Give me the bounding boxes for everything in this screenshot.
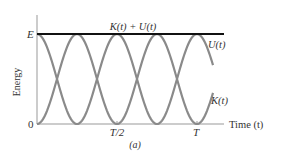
kinetic-energy-label: K(t): [210, 95, 228, 107]
half-period-label: T/2: [110, 126, 125, 138]
x-axis-label: Time (t): [229, 119, 264, 131]
e-tick-label: E: [26, 28, 34, 40]
zero-tick-label: 0: [28, 118, 34, 130]
panel-label: (a): [129, 139, 141, 151]
energy-vs-time-chart: E 0 Energy K(t) + U(t) U(t) K(t) T/2 T T…: [0, 0, 284, 152]
potential-energy-label: U(t): [208, 39, 226, 51]
period-label: T: [193, 126, 200, 138]
total-energy-label: K(t) + U(t): [109, 21, 157, 33]
y-axis-label: Energy: [11, 68, 22, 97]
